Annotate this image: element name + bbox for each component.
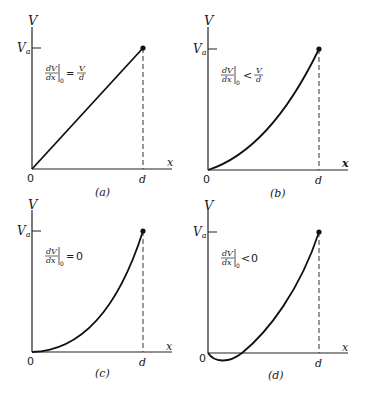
y-axis-label: V	[28, 13, 39, 28]
panel-a: V Va x 0 d (a) dV dx 0 = V d	[17, 13, 174, 199]
endpoint-dot	[140, 45, 145, 50]
caption: (a)	[95, 186, 110, 199]
slope-condition: dV dx 0 < V d	[221, 66, 263, 86]
origin-label: 0	[199, 352, 206, 365]
va-label: Va	[193, 42, 207, 57]
svg-text:d: d	[79, 73, 84, 82]
caption: (b)	[270, 187, 286, 200]
svg-text:<: <	[241, 252, 250, 265]
svg-text:d: d	[256, 75, 261, 84]
va-label: Va	[193, 225, 207, 240]
panel-b: V Va x 0 d (b) dV dx 0 < V d	[193, 13, 349, 200]
panel-c: V Va x 0 d (c) dV dx 0 = 0	[17, 197, 173, 380]
x-axis-label: x	[341, 157, 349, 170]
svg-text:V: V	[79, 64, 86, 73]
svg-text:0: 0	[236, 262, 240, 269]
endpoint-dot	[316, 46, 321, 51]
svg-text:V: V	[256, 66, 263, 75]
origin-label: 0	[27, 172, 34, 185]
x-axis-label: x	[166, 340, 173, 353]
slope-condition: dV dx 0 < 0	[221, 249, 258, 269]
origin-label: 0	[27, 355, 34, 368]
svg-text:dx: dx	[46, 73, 56, 82]
svg-text:dV: dV	[222, 249, 234, 258]
svg-text:0: 0	[60, 77, 64, 84]
endpoint-dot	[316, 229, 321, 234]
svg-text:dV: dV	[46, 247, 58, 256]
d-label: d	[315, 357, 322, 370]
potential-profiles-figure: V Va x 0 d (a) dV dx 0 = V d V Va x 0 d …	[0, 0, 366, 394]
y-axis-label: V	[28, 197, 39, 212]
x-axis-label: x	[342, 341, 349, 354]
origin-label: 0	[203, 173, 210, 186]
d-label: d	[139, 173, 146, 186]
svg-text:dx: dx	[222, 75, 232, 84]
d-label: d	[139, 356, 146, 369]
va-label: Va	[17, 41, 31, 56]
endpoint-dot	[140, 228, 145, 233]
d-label: d	[315, 174, 322, 187]
svg-text:0: 0	[76, 250, 83, 263]
svg-text:dx: dx	[222, 258, 232, 267]
svg-text:=: =	[66, 251, 74, 262]
caption: (d)	[268, 369, 284, 382]
svg-text:<: <	[243, 69, 252, 82]
x-axis-label: x	[167, 156, 174, 169]
panel-d: V Va x 0 d (d) dV dx 0 < 0	[193, 198, 349, 382]
slope-condition: dV dx 0 = 0	[45, 247, 83, 267]
svg-text:dV: dV	[46, 64, 58, 73]
svg-text:0: 0	[236, 79, 240, 86]
caption: (c)	[95, 367, 110, 380]
y-axis-label: V	[204, 13, 215, 28]
svg-text:0: 0	[60, 260, 64, 267]
svg-text:=: =	[66, 68, 74, 79]
va-label: Va	[17, 224, 31, 239]
svg-text:dV: dV	[222, 66, 234, 75]
slope-condition: dV dx 0 = V d	[45, 64, 86, 84]
svg-text:0: 0	[251, 252, 258, 265]
svg-text:dx: dx	[46, 256, 56, 265]
y-axis-label: V	[204, 198, 215, 213]
